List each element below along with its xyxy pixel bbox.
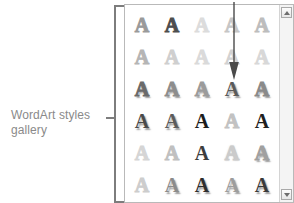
wordart-sample-letter: A (195, 175, 209, 195)
wordart-style-swatch[interactable]: A (127, 9, 157, 41)
wordart-style-swatch[interactable]: A (157, 137, 187, 169)
wordart-style-swatch[interactable]: A (217, 73, 247, 105)
wordart-style-swatch[interactable]: A (127, 105, 157, 137)
wordart-gallery-figure: WordArt styles gallery AAAAAAAAAAAAAAAAA… (0, 0, 294, 203)
gallery-row: AAAAA (127, 169, 277, 201)
wordart-style-swatch[interactable]: A (157, 105, 187, 137)
wordart-style-swatch[interactable]: A (157, 41, 187, 73)
wordart-style-swatch[interactable]: A (187, 9, 217, 41)
triangle-down-icon (284, 193, 290, 197)
wordart-style-swatch[interactable]: A (247, 41, 277, 73)
wordart-sample-letter: A (135, 111, 149, 131)
wordart-sample-letter: A (135, 15, 149, 35)
wordart-sample-letter: A (225, 175, 239, 195)
wordart-style-swatch[interactable]: A (217, 169, 247, 201)
wordart-style-swatch[interactable]: A (187, 169, 217, 201)
wordart-sample-letter: A (135, 143, 149, 163)
gallery-scrollbar[interactable] (279, 5, 293, 202)
wordart-style-swatch[interactable]: A (217, 9, 247, 41)
wordart-style-swatch[interactable]: A (247, 9, 277, 41)
wordart-sample-letter: A (165, 47, 179, 67)
bracket-tick (106, 117, 115, 119)
wordart-style-swatch[interactable]: A (127, 169, 157, 201)
wordart-styles-grid[interactable]: AAAAAAAAAAAAAAAAAAAAAAAAAAAAAA (125, 5, 279, 202)
wordart-sample-letter: A (135, 47, 149, 67)
gallery-row: AAAAA (127, 137, 277, 169)
wordart-sample-letter: A (225, 111, 239, 131)
wordart-style-swatch[interactable]: A (217, 137, 247, 169)
wordart-sample-letter: A (195, 47, 209, 67)
wordart-sample-letter: A (255, 79, 269, 99)
bracket-spine (114, 5, 116, 203)
wordart-sample-letter: A (165, 15, 179, 35)
wordart-sample-letter: A (255, 143, 269, 163)
wordart-style-swatch[interactable]: A (247, 169, 277, 201)
wordart-sample-letter: A (165, 175, 179, 195)
gallery-row: AAAAA (127, 41, 277, 73)
wordart-style-swatch[interactable]: A (157, 73, 187, 105)
gallery-row: AAAAA (127, 73, 277, 105)
wordart-sample-letter: A (255, 111, 269, 131)
wordart-style-swatch[interactable]: A (157, 9, 187, 41)
wordart-style-swatch[interactable]: A (247, 105, 277, 137)
wordart-style-swatch[interactable]: A (127, 137, 157, 169)
triangle-up-icon (284, 11, 290, 15)
wordart-sample-letter: A (225, 47, 239, 67)
wordart-sample-letter: A (255, 175, 269, 195)
wordart-sample-letter: A (195, 111, 209, 131)
wordart-style-swatch[interactable]: A (127, 41, 157, 73)
wordart-sample-letter: A (135, 79, 149, 99)
gallery-row: AAAAA (127, 105, 277, 137)
wordart-sample-letter: A (195, 79, 209, 99)
wordart-sample-letter: A (195, 143, 209, 163)
scroll-down-button[interactable] (281, 189, 292, 200)
wordart-sample-letter: A (225, 143, 239, 163)
scroll-up-button[interactable] (281, 7, 292, 18)
wordart-style-swatch[interactable]: A (157, 169, 187, 201)
wordart-style-swatch[interactable]: A (247, 137, 277, 169)
wordart-sample-letter: A (165, 79, 179, 99)
wordart-styles-gallery-panel[interactable]: AAAAAAAAAAAAAAAAAAAAAAAAAAAAAA (124, 4, 294, 203)
wordart-style-swatch[interactable]: A (187, 41, 217, 73)
wordart-style-swatch[interactable]: A (187, 73, 217, 105)
wordart-sample-letter: A (255, 15, 269, 35)
callout-label: WordArt styles gallery (11, 108, 103, 138)
wordart-style-swatch[interactable]: A (187, 105, 217, 137)
wordart-style-swatch[interactable]: A (217, 41, 247, 73)
wordart-style-swatch[interactable]: A (247, 73, 277, 105)
wordart-sample-letter: A (225, 79, 239, 99)
wordart-sample-letter: A (135, 175, 149, 195)
bracket-leader (100, 5, 126, 203)
wordart-sample-letter: A (165, 143, 179, 163)
wordart-style-swatch[interactable]: A (187, 137, 217, 169)
wordart-sample-letter: A (225, 15, 239, 35)
wordart-sample-letter: A (195, 15, 209, 35)
wordart-style-swatch[interactable]: A (217, 105, 247, 137)
wordart-sample-letter: A (255, 47, 269, 67)
wordart-style-swatch[interactable]: A (127, 73, 157, 105)
gallery-row: AAAAA (127, 9, 277, 41)
wordart-sample-letter: A (165, 111, 179, 131)
